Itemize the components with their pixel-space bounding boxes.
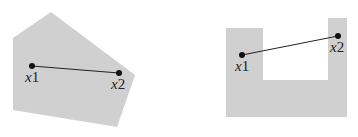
nonconvex-set: x1 x2 [226, 18, 347, 117]
label-x1: x1 [24, 69, 39, 85]
convexity-diagram: x1 x2 x1 x2 [0, 0, 358, 137]
label-x2: x2 [329, 39, 344, 55]
label-x2: x2 [110, 76, 125, 92]
convex-set: x1 x2 [13, 12, 135, 127]
label-x1: x1 [234, 58, 249, 74]
